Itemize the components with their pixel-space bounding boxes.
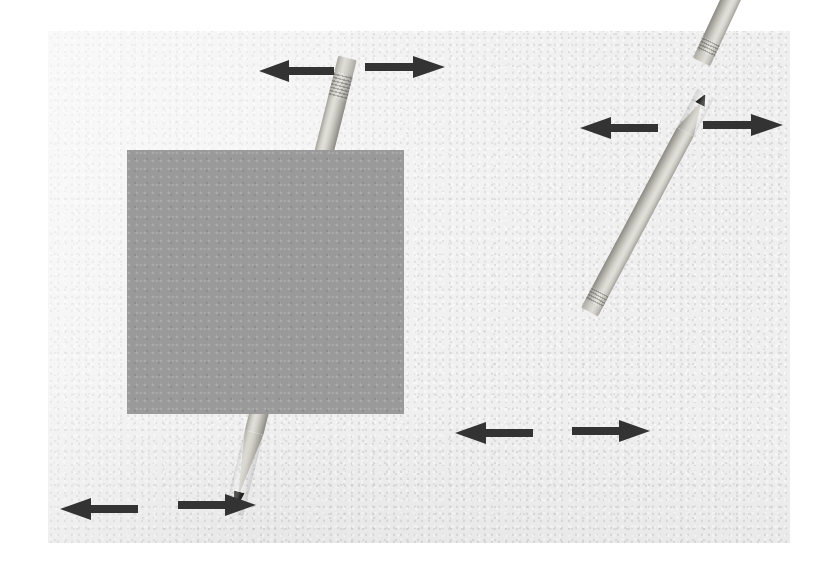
arrow-right-bottom [178, 492, 256, 518]
arrow-left-icon [60, 498, 138, 520]
arrow-left-bottom [60, 496, 138, 522]
arrow-pair-bottom-left [0, 0, 833, 568]
figure-canvas [0, 0, 833, 568]
arrow-right-icon [178, 494, 256, 516]
arrows-layer [0, 0, 833, 568]
